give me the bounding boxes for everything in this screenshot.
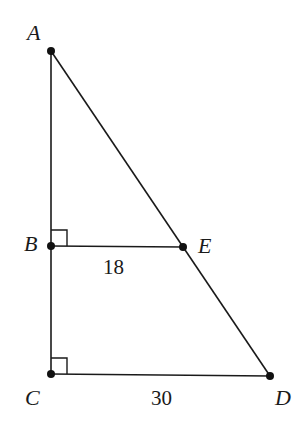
label-a: A bbox=[25, 20, 41, 45]
point-d bbox=[266, 372, 274, 380]
point-a bbox=[47, 47, 55, 55]
point-b bbox=[47, 242, 55, 250]
segment-ad bbox=[51, 51, 270, 376]
label-d: D bbox=[274, 385, 291, 410]
measurement-cd: 30 bbox=[151, 386, 172, 410]
segment-be bbox=[51, 246, 183, 247]
label-b: B bbox=[24, 231, 37, 256]
measurement-be: 18 bbox=[103, 255, 124, 279]
label-e: E bbox=[197, 233, 212, 258]
segment-cd bbox=[51, 374, 270, 376]
point-e bbox=[179, 243, 187, 251]
geometry-diagram: A B C D E 18 30 bbox=[0, 0, 304, 430]
label-c: C bbox=[25, 385, 40, 410]
point-c bbox=[47, 370, 55, 378]
